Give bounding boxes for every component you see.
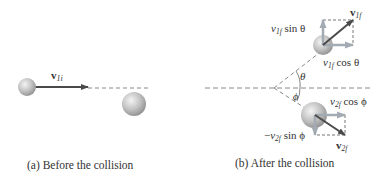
panel-before-collision: v1i (a) Before the collision — [18, 69, 150, 172]
phi-label: ϕ — [293, 91, 298, 102]
collision-diagram: v1i (a) Before the collision θ ϕ v1f v1f… — [0, 0, 382, 185]
v1f-arrow — [323, 20, 353, 45]
v1i-label: v1i — [51, 69, 63, 83]
v1f-sin-label: v1f sin θ — [271, 22, 305, 36]
v1f-label: v1f — [350, 6, 362, 20]
caption-after: (b) After the collision — [235, 157, 335, 170]
v1f-cos-label: v1f cos θ — [323, 56, 359, 70]
v2f-cos-label: v2f cos ϕ — [330, 95, 367, 109]
v2f-label: v2f — [336, 139, 348, 153]
panel-after-collision: θ ϕ v1f v1f sin θ v1f cos θ v2f cos ϕ −v… — [205, 6, 372, 170]
ball2-path-dashed — [274, 88, 305, 108]
theta-label: θ — [300, 70, 306, 82]
caption-before: (a) Before the collision — [27, 159, 134, 172]
v2f-sin-label: −v2f sin ϕ — [264, 129, 305, 143]
ball1-path-dashed — [274, 50, 323, 88]
ball-2 — [122, 92, 146, 116]
ball-1 — [18, 78, 36, 96]
